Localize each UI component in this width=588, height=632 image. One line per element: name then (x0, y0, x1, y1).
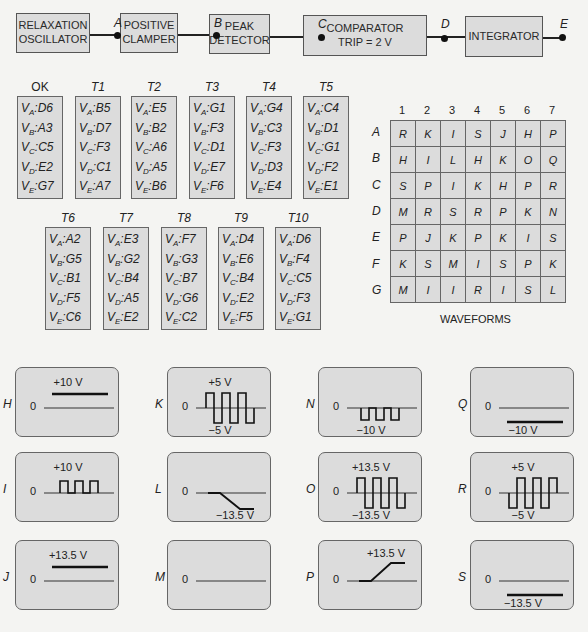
grid-row: KSMISPK (391, 251, 566, 277)
node-label-a: A (114, 16, 122, 30)
grid-cell: M (391, 277, 416, 303)
table-box: VA:G4VB:C3VC:F3VD:D3VE:E4 (246, 96, 292, 199)
grid-reference: B5 (96, 101, 111, 115)
column-label: 6 (515, 104, 539, 116)
top-voltage-label: +10 V (16, 461, 120, 473)
table-box: VA:D6VB:F4VC:C5VD:F3VE:G1 (275, 227, 321, 330)
table-row: VA:C4 (307, 99, 348, 119)
bottom-voltage-label: −10 V (471, 424, 575, 436)
grid-reference: E2 (38, 160, 53, 174)
grid-cell: N (541, 199, 566, 225)
grid-reference: D6 (38, 101, 53, 115)
node-subscript: A (143, 108, 148, 117)
bottom-voltage-label: −13.5 V (319, 509, 423, 521)
zero-label: 0 (485, 400, 491, 412)
zero-label: 0 (182, 400, 188, 412)
grid-reference: E4 (267, 179, 282, 193)
grid-cell: K (491, 147, 516, 173)
node-subscript: A (315, 108, 320, 117)
bottom-voltage-label: −13.5 V (168, 509, 272, 521)
table-title: T6 (45, 210, 91, 227)
grid-reference: A2 (66, 232, 81, 246)
table-box: VA:G1VB:F3VC:D1VD:E7VE:F6 (189, 96, 235, 199)
grid-cell: K (391, 251, 416, 277)
node-subscript: D (201, 167, 207, 176)
node-subscript: D (143, 167, 149, 176)
test-table-t6: T6VA:A2VB:G5VC:B1VD:F5VE:C6 (45, 210, 91, 330)
waveform-panel-j: 0+13.5 V (15, 540, 119, 610)
node-subscript: C (173, 278, 179, 287)
table-row: VC:F3 (250, 138, 291, 158)
bottom-voltage-label: −13.5 V (471, 597, 575, 609)
grid-cell: I (466, 251, 491, 277)
node-e (559, 34, 566, 41)
column-label: 3 (440, 104, 464, 116)
node-subscript: B (143, 128, 148, 137)
grid-reference: D1 (324, 121, 339, 135)
grid-cell: I (441, 121, 466, 147)
table-row: VE:E2 (107, 308, 148, 328)
grid-row: HILHKOQ (391, 147, 566, 173)
zero-label: 0 (30, 573, 36, 585)
grid-cell: P (516, 173, 541, 199)
node-subscript: B (258, 128, 263, 137)
waveform-id-label: N (306, 397, 315, 411)
node-subscript: B (29, 128, 34, 137)
column-label: 5 (490, 104, 514, 116)
node-subscript: B (315, 128, 320, 137)
grid-cell: I (491, 277, 516, 303)
node-subscript: D (115, 298, 121, 307)
table-row: VC:B1 (49, 269, 90, 289)
node-subscript: C (115, 278, 121, 287)
node-subscript: D (287, 298, 293, 307)
table-row: VC:F3 (79, 138, 120, 158)
table-row: VA:E5 (135, 99, 176, 119)
grid-reference: F4 (296, 252, 310, 266)
table-row: VE:E4 (250, 177, 291, 197)
node-subscript: A (201, 108, 206, 117)
table-row: VC:C5 (21, 138, 62, 158)
node-subscript: E (287, 317, 292, 326)
grid-reference: G7 (38, 179, 54, 193)
waveform-id-label: I (3, 482, 6, 496)
grid-reference: G6 (182, 291, 198, 305)
table-title: T4 (246, 79, 292, 96)
table-row: VE:C6 (49, 308, 90, 328)
table-row: VA:A2 (49, 230, 90, 250)
node-label-b: B (214, 16, 222, 30)
grid-cell: M (441, 251, 466, 277)
zero-label: 0 (333, 400, 339, 412)
grid-cell: P (516, 251, 541, 277)
grid-reference: B6 (152, 179, 167, 193)
table-row: VB:G5 (49, 250, 90, 270)
grid-cell: H (466, 147, 491, 173)
waveform-id-label: M (155, 570, 165, 584)
table-row: VB:D1 (307, 119, 348, 139)
top-voltage-label: +5 V (168, 376, 272, 388)
zero-label: 0 (182, 485, 188, 497)
grid-reference: D4 (239, 232, 254, 246)
grid-reference: A5 (152, 160, 167, 174)
test-table-t7: T7VA:E3VB:G2VC:B4VD:A5VE:E2 (103, 210, 149, 330)
grid-reference: E7 (210, 160, 225, 174)
table-box: VA:A2VB:G5VC:B1VD:F5VE:C6 (45, 227, 91, 330)
grid-reference: F5 (239, 310, 253, 324)
grid-cell: R (466, 277, 491, 303)
waveform-id-label: L (155, 482, 162, 496)
grid-row: RKISJHP (391, 121, 566, 147)
node-subscript: A (230, 239, 235, 248)
table-row: VC:C5 (279, 269, 320, 289)
waveform-id-label: S (458, 570, 466, 584)
node-subscript: D (87, 167, 93, 176)
top-voltage-label: +5 V (471, 461, 575, 473)
table-row: VE:E1 (307, 177, 348, 197)
table-row: VE:A7 (79, 177, 120, 197)
grid-reference: E2 (239, 291, 254, 305)
grid-cell: S (516, 277, 541, 303)
table-row: VE:C2 (165, 308, 206, 328)
node-subscript: B (201, 128, 206, 137)
grid-reference: B2 (152, 121, 167, 135)
grid-reference: C2 (182, 310, 197, 324)
waveform-panel-m: 0 (167, 540, 271, 610)
test-table-t8: T8VA:F7VB:G3VC:B7VD:G6VE:C2 (161, 210, 207, 330)
